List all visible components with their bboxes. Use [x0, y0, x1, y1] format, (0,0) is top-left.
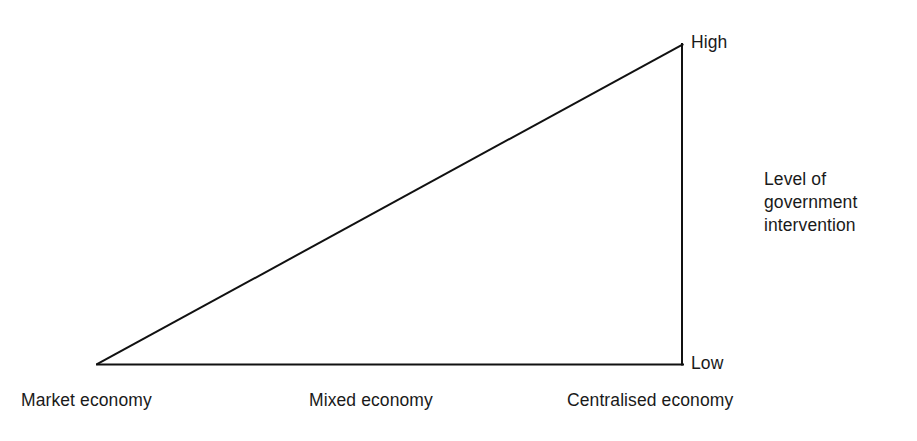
x-axis-label-centralised-economy: Centralised economy — [567, 389, 733, 412]
y-axis-caption-line-1: Level of — [764, 168, 904, 191]
diagram-canvas: High Low Level of government interventio… — [0, 0, 917, 441]
axis-label-high: High — [691, 31, 727, 54]
y-axis-caption-line-3: intervention — [764, 214, 904, 237]
x-axis-label-market-economy: Market economy — [21, 389, 152, 412]
y-axis-caption: Level of government intervention — [764, 168, 904, 237]
y-axis-caption-line-2: government — [764, 191, 904, 214]
hypotenuse-intervention-line — [98, 45, 683, 365]
axis-label-low: Low — [691, 352, 723, 375]
x-axis-label-mixed-economy: Mixed economy — [309, 389, 433, 412]
